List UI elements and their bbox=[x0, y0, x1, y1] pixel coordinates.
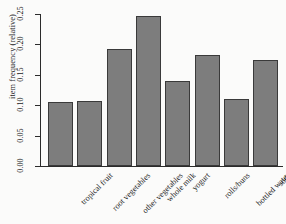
bar bbox=[165, 81, 190, 166]
bar bbox=[107, 49, 132, 166]
bar-chart: item frequency (relative) 0.000.050.100.… bbox=[0, 0, 286, 224]
bars-group bbox=[0, 0, 286, 224]
bar bbox=[136, 16, 161, 166]
bar bbox=[48, 102, 73, 166]
bar bbox=[253, 60, 278, 166]
bar bbox=[224, 99, 249, 166]
bar bbox=[195, 55, 220, 166]
bar bbox=[77, 101, 102, 166]
